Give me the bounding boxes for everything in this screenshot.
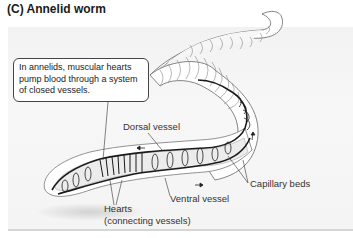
capillary-beds-label: Capillary beds [250,178,310,190]
hearts-label: Hearts [104,203,132,215]
hearts-sublabel: (connecting vessels) [104,215,191,227]
ventral-vessel-label: Ventral vessel [170,193,229,205]
callout-box: In annelids, muscular hearts pump blood … [13,58,149,102]
hearts-leader-2 [116,180,122,205]
dorsal-vessel-label: Dorsal vessel [123,121,180,133]
